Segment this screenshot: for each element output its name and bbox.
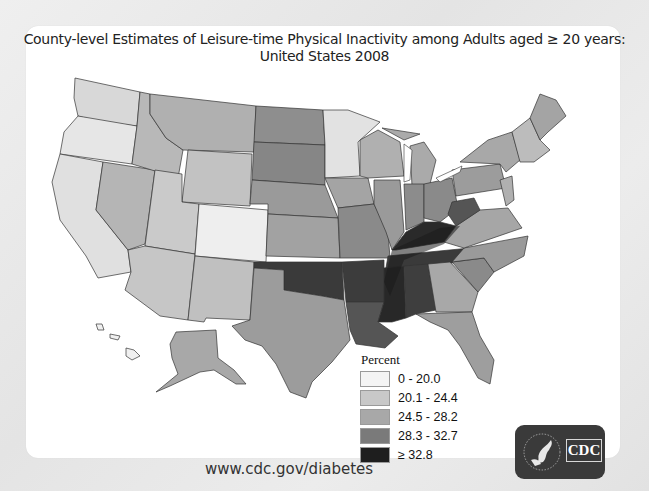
legend-label: 0 - 20.0 [398, 372, 440, 386]
cdc-logo: CDC [515, 425, 605, 479]
legend-label: 28.3 - 32.7 [398, 429, 458, 443]
legend-swatch [360, 409, 390, 425]
hhs-eagle-icon [521, 430, 563, 474]
legend-item: 20.1 - 24.4 [360, 388, 458, 407]
legend-item: 24.5 - 28.2 [360, 407, 458, 426]
legend-swatch [360, 390, 390, 406]
footer-url[interactable]: www.cdc.gov/diabetes [205, 460, 373, 478]
title-line-1: County-level Estimates of Leisure-time P… [0, 31, 649, 48]
us-choropleth-map [40, 62, 600, 432]
legend-item: 28.3 - 32.7 [360, 426, 458, 445]
legend-item: 0 - 20.0 [360, 369, 458, 388]
state-newmexico [188, 256, 254, 322]
state-alaska [156, 330, 246, 392]
legend-label: ≥ 32.8 [398, 448, 433, 462]
legend-title: Percent [361, 352, 458, 369]
state-kansas [266, 214, 340, 258]
legend-label: 20.1 - 24.4 [398, 391, 458, 405]
map-legend: Percent 0 - 20.0 20.1 - 24.4 24.5 - 28.2… [360, 352, 458, 464]
lake-michigan [404, 144, 412, 182]
state-hawaii [126, 348, 140, 360]
state-wisconsin [360, 130, 404, 178]
state-indiana [404, 184, 424, 230]
cdc-wordmark: CDC [566, 439, 602, 462]
state-southdakota [252, 142, 325, 185]
legend-label: 24.5 - 28.2 [398, 410, 458, 424]
legend-item: ≥ 32.8 [360, 445, 458, 464]
state-northdakota [254, 106, 325, 145]
legend-swatch [360, 428, 390, 444]
state-arizona [125, 246, 195, 320]
state-hawaii-small [96, 324, 120, 340]
state-mid-atlantic [500, 176, 514, 206]
state-wyoming [182, 150, 252, 206]
state-arkansas [342, 260, 384, 302]
legend-swatch [360, 371, 390, 387]
map-title: County-level Estimates of Leisure-time P… [0, 31, 649, 65]
state-colorado [195, 204, 268, 262]
